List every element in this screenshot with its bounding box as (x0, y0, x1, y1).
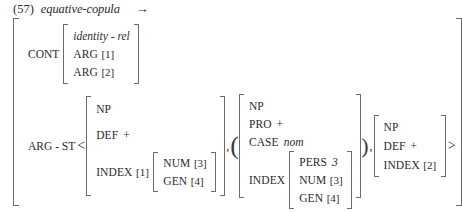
cont-right-bracket (134, 24, 139, 84)
arg2-index-value-avm: PERS 3 NUM [3] GEN [4] (289, 151, 352, 209)
arg2-pro-row: PRO + (249, 115, 352, 133)
arg1-index-avm-body: NUM [3] GEN [4] (158, 152, 211, 192)
arg3-def-row: DEF + (384, 137, 437, 155)
tag-arg2: [2] (101, 67, 115, 78)
optional-paren-open: ( (230, 133, 239, 159)
feature-arg1: ARG [1] (73, 45, 129, 63)
arg2-avm-body: NP PRO + CASE nom INDEX (244, 94, 356, 198)
arg-st-element-3: NP DEF + INDEX [2] (374, 115, 446, 177)
feature-label-arg1: ARG (73, 45, 98, 63)
outer-right-bracket (456, 18, 462, 206)
feature-arg2: ARG [2] (73, 63, 129, 81)
arg2-index-row: INDEX PERS 3 NUM [3] (249, 151, 352, 209)
arg1-num-label: NUM (163, 154, 190, 172)
list-separator-2: , (370, 139, 373, 154)
rightwards-arrow-icon: → (136, 2, 149, 15)
avm-body: CONT identity - rel ARG [1] ARG [2] (19, 18, 456, 206)
arg3-def-value: + (411, 137, 418, 155)
arg1-index-value-avm: NUM [3] GEN [4] (153, 152, 216, 192)
arg3-category-label: NP (384, 118, 399, 136)
arg2-case-value: nom (284, 133, 304, 151)
arg1-avm-body: NP DEF + INDEX [1] NUM (91, 96, 220, 196)
cont-avm-body: identity - rel ARG [1] ARG [2] (68, 24, 133, 84)
arg1-right-bracket (220, 96, 225, 196)
arg2-num-label: NUM (299, 171, 326, 189)
arg1-gen-label: GEN (163, 172, 187, 190)
arg1-num-row: NUM [3] (163, 154, 207, 172)
arg2-pro-value: + (277, 115, 284, 133)
arg3-def-label: DEF (384, 137, 406, 155)
arg2-left-bracket (239, 94, 244, 198)
arg-st-element-1: NP DEF + INDEX [1] NUM (86, 96, 225, 196)
arg1-left-bracket (86, 96, 91, 196)
arg2-index-avm-body: PERS 3 NUM [3] GEN [4] (294, 151, 347, 209)
arg1-index-label: INDEX (96, 163, 132, 181)
feature-cont: CONT identity - rel ARG [1] ARG [2] (28, 24, 456, 84)
example-number: (57) (13, 2, 34, 17)
cont-value-avm: identity - rel ARG [1] ARG [2] (63, 24, 138, 84)
arg2-index-label: INDEX (249, 171, 285, 189)
arg2-right-bracket (356, 94, 361, 198)
cont-type-name: identity - rel (73, 27, 129, 45)
arg2-pers-label: PERS (299, 153, 327, 171)
arg1-num-tag: [3] (193, 158, 207, 169)
feature-arg-st: ARG - ST < NP DEF + INDEX [1] (28, 94, 456, 198)
arg1-def-value: + (123, 126, 130, 144)
outer-left-bracket (13, 18, 19, 206)
feature-label-arg-st: ARG - ST (28, 140, 75, 152)
tag-arg1: [1] (101, 49, 115, 60)
feature-label-cont: CONT (28, 48, 59, 60)
arg1-index-left-bracket (153, 152, 158, 192)
arg1-def-label: DEF (96, 126, 118, 144)
arg2-index-right-bracket (347, 151, 352, 209)
optional-paren-close: ) (361, 135, 368, 157)
arg1-index-row: INDEX [1] NUM [3] GEN (96, 152, 216, 192)
arg2-case-row: CASE nom (249, 133, 352, 151)
arg1-index-tag: [1] (135, 167, 149, 178)
arg3-avm-body: NP DEF + INDEX [2] (379, 115, 441, 177)
lexical-entry-avm: CONT identity - rel ARG [1] ARG [2] (13, 18, 462, 206)
arg1-category-row: NP (96, 100, 216, 118)
arg2-pers-row: PERS 3 (299, 153, 343, 171)
list-close-angle: > (448, 138, 456, 154)
arg2-gen-row: GEN [4] (299, 189, 343, 207)
arg1-index-right-bracket (211, 152, 216, 192)
arg1-gen-row: GEN [4] (163, 172, 207, 190)
arg2-num-tag: [3] (329, 175, 343, 186)
arg3-index-row: INDEX [2] (384, 156, 437, 174)
arg2-pers-value: 3 (332, 153, 338, 171)
arg2-num-row: NUM [3] (299, 171, 343, 189)
list-separator-1: , (226, 139, 229, 154)
example-header: (57) equative-copula → (13, 2, 149, 17)
arg1-def-row: DEF + (96, 126, 216, 144)
cont-left-bracket (63, 24, 68, 84)
list-open-angle: < (77, 138, 85, 154)
arg2-pro-label: PRO (249, 115, 272, 133)
rule-type-name: equative-copula (41, 2, 120, 17)
arg1-gen-tag: [4] (190, 176, 204, 187)
arg2-index-left-bracket (289, 151, 294, 209)
arg2-category-row: NP (249, 97, 352, 115)
arg3-index-tag: [2] (423, 160, 437, 171)
feature-label-arg2: ARG (73, 63, 98, 81)
arg2-gen-label: GEN (299, 189, 323, 207)
arg2-case-label: CASE (249, 133, 279, 151)
arg3-index-label: INDEX (384, 156, 420, 174)
arg2-gen-tag: [4] (326, 193, 340, 204)
arg-st-element-2: NP PRO + CASE nom INDEX (239, 94, 361, 198)
arg3-category-row: NP (384, 118, 437, 136)
arg3-left-bracket (374, 115, 379, 177)
arg3-right-bracket (441, 115, 446, 177)
arg1-category-label: NP (96, 100, 111, 118)
arg2-category-label: NP (249, 97, 264, 115)
